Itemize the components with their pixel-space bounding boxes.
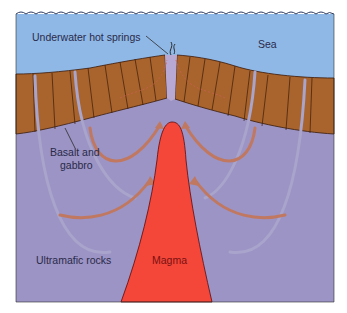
label-hot-springs: Underwater hot springs bbox=[32, 31, 141, 43]
ridge-diagram: Underwater hot springs Sea Basalt and ga… bbox=[0, 0, 347, 313]
label-ultramafic: Ultramafic rocks bbox=[36, 254, 111, 266]
sea-surface-waves bbox=[16, 12, 334, 14]
label-magma: Magma bbox=[152, 254, 187, 266]
label-basalt-line2: gabbro bbox=[60, 159, 93, 171]
label-sea: Sea bbox=[258, 38, 277, 50]
label-basalt-line1: Basalt and bbox=[50, 146, 100, 158]
